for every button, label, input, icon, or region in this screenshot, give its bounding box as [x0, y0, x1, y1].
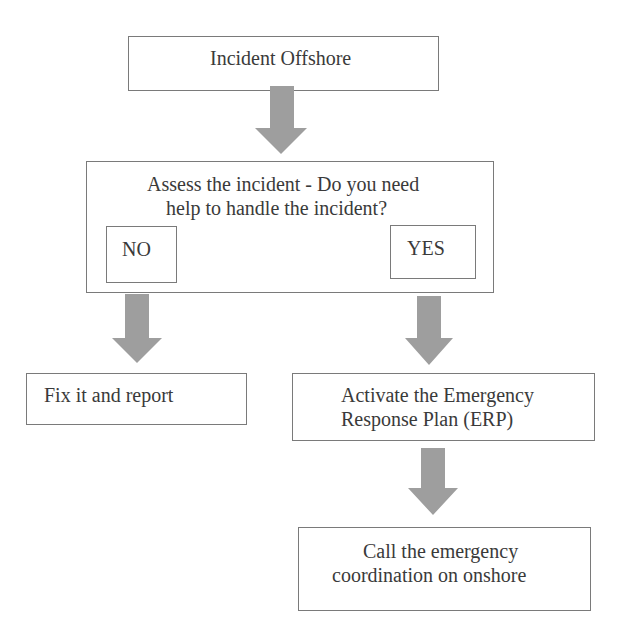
down-arrow-icon — [408, 448, 460, 518]
decision-question-line2: help to handle the incident? — [166, 196, 387, 220]
final-line2: coordination on onshore — [332, 563, 526, 587]
yes-action-line1: Activate the Emergency — [341, 383, 534, 407]
yes-action-line2: Response Plan (ERP) — [341, 407, 513, 431]
decision-question-line1: Assess the incident - Do you need — [147, 172, 419, 196]
final-line1: Call the emergency — [363, 539, 518, 563]
no-option-label: NO — [122, 237, 151, 261]
no-action-label: Fix it and report — [44, 383, 173, 407]
start-node-label: Incident Offshore — [210, 46, 351, 70]
down-arrow-icon — [255, 86, 307, 156]
yes-option-label: YES — [407, 236, 445, 260]
down-arrow-icon — [405, 296, 455, 366]
down-arrow-icon — [112, 294, 162, 364]
